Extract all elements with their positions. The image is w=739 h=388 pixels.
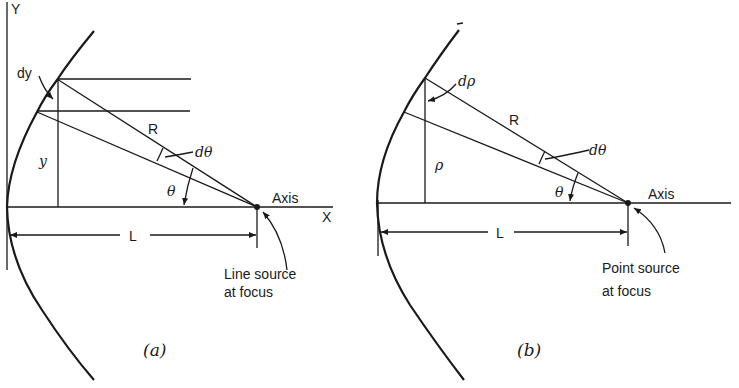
x-axis-label: X bbox=[322, 209, 332, 225]
caption-b: (b) bbox=[517, 340, 541, 360]
drho-label: dρ bbox=[458, 73, 476, 89]
dtheta-leader bbox=[545, 150, 589, 159]
source-label-line1: Point source bbox=[602, 260, 680, 276]
source-label-line2: at focus bbox=[224, 284, 273, 300]
y-axis-label: Y bbox=[11, 1, 21, 17]
theta-arc bbox=[184, 168, 193, 205]
drho-arrow bbox=[428, 84, 456, 101]
dtheta-arc bbox=[157, 148, 163, 161]
theta-arc bbox=[570, 173, 578, 201]
rho-label: ρ bbox=[434, 157, 444, 173]
R-label: R bbox=[509, 112, 519, 128]
R-label: R bbox=[148, 121, 158, 137]
dtheta-leader bbox=[165, 152, 193, 157]
dtheta-label: dθ bbox=[589, 142, 607, 158]
source-pointer-arrow bbox=[263, 212, 287, 270]
axis-label: Axis bbox=[648, 186, 674, 202]
source-pointer-arrow bbox=[634, 208, 665, 253]
dtheta-label: dθ bbox=[195, 144, 213, 160]
parabola-reflector bbox=[377, 30, 464, 380]
theta-label: θ bbox=[167, 183, 176, 199]
ray-R-dtheta bbox=[37, 112, 257, 207]
theta-label: θ bbox=[555, 184, 564, 200]
dy-label: dy bbox=[17, 65, 32, 81]
source-label-line1: Line source bbox=[224, 266, 297, 282]
panel-a: Y X L dy R dθ θ y bbox=[7, 1, 333, 380]
top-tick bbox=[457, 23, 463, 24]
parabolic-reflector-diagram: Y X L dy R dθ θ y bbox=[0, 0, 739, 388]
caption-a: (a) bbox=[143, 340, 166, 360]
dtheta-arc bbox=[539, 151, 545, 164]
y-label: y bbox=[38, 153, 48, 169]
ray-R bbox=[425, 78, 628, 203]
ray-R bbox=[57, 79, 257, 207]
L-label: L bbox=[496, 225, 504, 241]
panel-b: L dρ R dθ θ ρ Axis Point source at focus… bbox=[377, 23, 731, 380]
parabola-reflector bbox=[7, 31, 94, 380]
axis-label: Axis bbox=[272, 190, 298, 206]
L-label: L bbox=[129, 228, 137, 244]
source-label-line2: at focus bbox=[602, 283, 651, 299]
